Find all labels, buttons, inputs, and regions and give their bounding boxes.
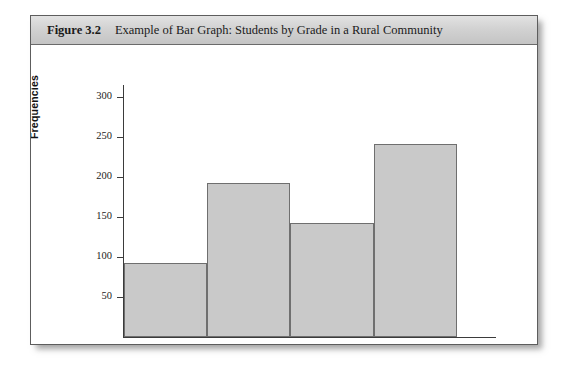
x-tick-label-3: 3 [290,342,373,344]
y-tick-100: 100 [117,257,124,258]
x-tick-label-2: 2 [207,342,290,344]
y-tick-50: 50 [117,297,124,298]
screenshot-root: Figure 3.2 Example of Bar Graph: Student… [0,0,580,376]
bar-1 [124,263,207,337]
figure-caption: Example of Bar Graph: Students by Grade … [115,23,443,38]
chart-plot-area: Frequencies 50100150200250300 1234 [31,45,537,344]
bar-4 [374,144,457,337]
x-tick-label-1: 1 [124,342,207,344]
y-tick-label-200: 200 [96,170,112,181]
x-axis-line [123,337,496,338]
figure-number: Figure 3.2 [47,23,101,38]
bar-2 [207,183,290,337]
figure-container: Figure 3.2 Example of Bar Graph: Student… [30,15,538,345]
y-tick-300: 300 [117,97,124,98]
y-tick-label-50: 50 [102,290,113,301]
x-tick-label-4: 4 [374,342,457,344]
y-tick-label-300: 300 [96,90,112,101]
figure-header-bar: Figure 3.2 Example of Bar Graph: Student… [31,16,537,45]
y-tick-label-100: 100 [96,250,112,261]
y-tick-250: 250 [117,137,124,138]
y-tick-200: 200 [117,177,124,178]
bar-3 [290,223,373,337]
y-tick-150: 150 [117,217,124,218]
y-axis-title: Frequencies [31,47,40,167]
y-tick-label-250: 250 [96,130,112,141]
y-tick-label-150: 150 [96,210,112,221]
